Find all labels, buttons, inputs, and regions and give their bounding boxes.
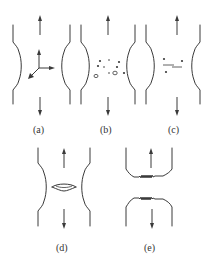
panel-a: (a)	[13, 15, 70, 136]
panel-b: (b)	[81, 15, 135, 136]
tension-arrow-up-icon	[38, 15, 42, 35]
tension-arrow-down-icon	[38, 97, 42, 116]
specimen-right-profile	[127, 25, 135, 104]
specimen-left-profile	[38, 148, 46, 226]
upper-fracture-surface	[126, 148, 172, 178]
panel-b-caption: (b)	[100, 124, 112, 136]
specimen-right-profile	[192, 25, 200, 104]
panel-e-caption: (e)	[144, 242, 155, 254]
panel-c: (c)	[146, 15, 200, 136]
specimen-left-profile	[81, 25, 89, 104]
panel-d: (d)	[38, 148, 90, 254]
coalescing-voids	[163, 58, 183, 73]
triaxial-stress-axes-icon	[28, 49, 55, 79]
tension-arrow-down-icon	[62, 209, 66, 229]
panel-e: (e)	[126, 148, 172, 254]
inclusion-particles	[97, 59, 125, 74]
tension-arrow-down-icon	[150, 209, 154, 229]
specimen-left-profile	[13, 25, 21, 104]
specimen-right-profile	[82, 148, 90, 226]
specimen-left-profile	[146, 25, 154, 104]
lower-fracture-surface	[126, 197, 172, 226]
ductile-fracture-figure: (a) (b)	[0, 0, 208, 261]
tension-arrow-up-icon	[175, 15, 179, 35]
tension-arrow-up-icon	[149, 148, 153, 168]
specimen-right-profile	[62, 25, 70, 104]
central-crack	[52, 184, 76, 191]
tension-arrow-down-icon	[175, 97, 179, 116]
panel-d-caption: (d)	[56, 242, 68, 254]
panel-a-caption: (a)	[33, 124, 44, 136]
tension-arrow-up-icon	[62, 148, 66, 168]
nucleated-voids	[94, 71, 117, 77]
panel-c-caption: (c)	[168, 124, 179, 136]
tension-arrow-down-icon	[106, 97, 110, 116]
tension-arrow-up-icon	[106, 15, 110, 35]
